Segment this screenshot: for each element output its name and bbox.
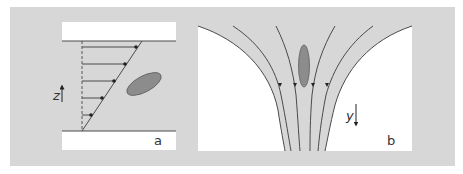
flow-diagram: z a y b xyxy=(0,0,463,174)
elongated-particle xyxy=(299,45,310,87)
top-plate xyxy=(62,22,176,41)
panel-b-label: b xyxy=(387,133,395,148)
panel-a-label: a xyxy=(154,133,162,148)
y-axis-label: y xyxy=(345,108,354,123)
z-axis-label: z xyxy=(52,88,61,103)
